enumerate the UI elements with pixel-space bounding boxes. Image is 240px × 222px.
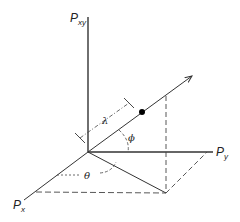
label-py: Py [216,145,229,161]
dashed-floor-x [36,192,166,193]
point-marker [139,109,145,115]
diagonal-axis [24,152,88,200]
label-theta: θ [84,170,90,181]
dashed-floor-y [166,152,207,193]
lambda-tick-end [124,98,134,108]
label-pxy: Pxy [70,11,87,27]
lambda-tick-start [75,133,85,143]
label-phi: ϕ [128,132,135,143]
label-lambda: λ [101,115,108,126]
label-px: Px [13,198,26,214]
theta-arc [100,162,116,173]
coordinate-diagram: Pxy Py Px θ ϕ λ [0,0,240,222]
projection-line [88,152,166,193]
phi-arc [119,130,128,152]
